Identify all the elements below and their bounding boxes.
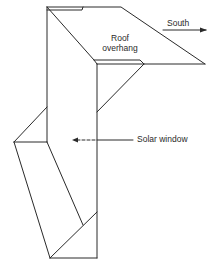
- roof-overhang-label-line2: overhang: [100, 43, 140, 53]
- south-label: South: [167, 18, 189, 28]
- south-arrow: [163, 28, 207, 33]
- solar-window-label: Solar window: [137, 134, 188, 144]
- roof-overhang-label-line1: Roof: [100, 33, 140, 43]
- solar-window-arrow: [72, 138, 133, 143]
- roof-overhang-label: Roof overhang: [100, 33, 140, 53]
